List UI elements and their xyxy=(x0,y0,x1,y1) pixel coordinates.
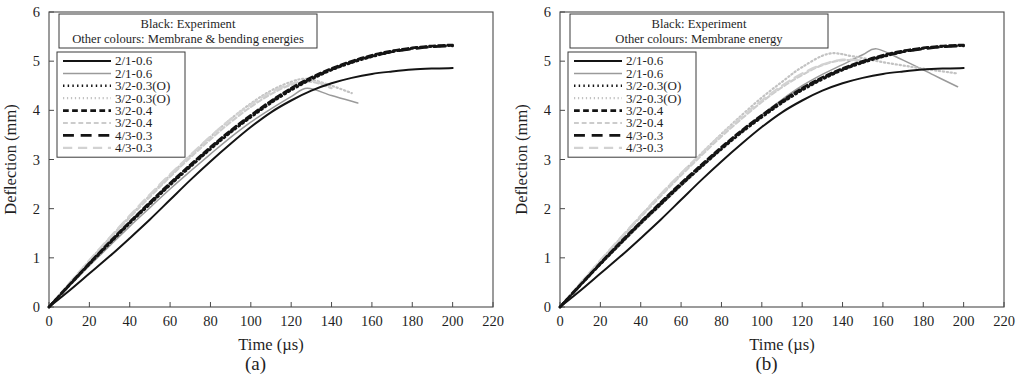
legend-header-line: Other colours: Membrane energy xyxy=(615,32,783,46)
legend-header-line: Black: Experiment xyxy=(141,17,236,31)
x-axis-title: Time (µs) xyxy=(749,335,814,354)
y-tick-label: 4 xyxy=(33,102,41,118)
panel-b: 0204060801001201401601802002200123456Tim… xyxy=(511,0,1022,377)
x-tick-label: 140 xyxy=(321,313,343,329)
y-tick-label: 0 xyxy=(544,299,551,315)
y-tick-label: 2 xyxy=(544,201,551,217)
chart-a: 0204060801001201401601802002200123456Tim… xyxy=(0,0,511,377)
y-tick-label: 2 xyxy=(33,201,40,217)
x-tick-label: 60 xyxy=(674,313,689,329)
y-tick-label: 6 xyxy=(33,4,40,20)
y-tick-label: 0 xyxy=(33,299,40,315)
x-tick-label: 100 xyxy=(751,313,773,329)
x-tick-label: 180 xyxy=(912,313,934,329)
y-tick-label: 5 xyxy=(544,53,551,69)
x-tick-label: 200 xyxy=(953,313,975,329)
x-tick-label: 40 xyxy=(122,313,137,329)
x-tick-label: 200 xyxy=(442,313,464,329)
y-tick-label: 3 xyxy=(544,152,551,168)
y-tick-label: 4 xyxy=(544,102,552,118)
y-tick-label: 1 xyxy=(544,250,551,266)
x-tick-label: 120 xyxy=(791,313,813,329)
x-tick-label: 160 xyxy=(872,313,894,329)
x-tick-label: 220 xyxy=(993,313,1015,329)
y-tick-label: 3 xyxy=(33,152,40,168)
x-axis-title: Time (µs) xyxy=(238,335,303,354)
panel-caption-a: (a) xyxy=(0,353,511,375)
x-tick-label: 100 xyxy=(240,313,262,329)
x-tick-label: 0 xyxy=(556,313,563,329)
y-axis-title: Deflection (mm) xyxy=(512,104,531,214)
legend-item-label: 4/3-0.3 xyxy=(626,140,663,155)
x-tick-label: 160 xyxy=(361,313,383,329)
chart-b: 0204060801001201401601802002200123456Tim… xyxy=(511,0,1022,377)
x-tick-label: 60 xyxy=(163,313,178,329)
y-tick-label: 5 xyxy=(33,53,40,69)
x-tick-label: 180 xyxy=(401,313,423,329)
x-tick-label: 20 xyxy=(82,313,97,329)
legend-header-line: Black: Experiment xyxy=(652,17,747,31)
x-tick-label: 220 xyxy=(482,313,504,329)
x-tick-label: 20 xyxy=(593,313,608,329)
panel-a: 0204060801001201401601802002200123456Tim… xyxy=(0,0,511,377)
legend-header-line: Other colours: Membrane & bending energi… xyxy=(72,32,304,46)
x-tick-label: 80 xyxy=(714,313,729,329)
x-tick-label: 80 xyxy=(203,313,218,329)
figure-two-panel-deflection-vs-time: 0204060801001201401601802002200123456Tim… xyxy=(0,0,1022,377)
plot-area-b: 0204060801001201401601802002200123456Tim… xyxy=(512,4,1015,354)
panel-caption-b: (b) xyxy=(511,353,1022,375)
legend-item-label: 4/3-0.3 xyxy=(115,140,152,155)
x-tick-label: 0 xyxy=(45,313,52,329)
x-tick-label: 40 xyxy=(633,313,648,329)
y-tick-label: 6 xyxy=(544,4,551,20)
y-tick-label: 1 xyxy=(33,250,40,266)
x-tick-label: 120 xyxy=(280,313,302,329)
plot-area-a: 0204060801001201401601802002200123456Tim… xyxy=(1,4,504,354)
x-tick-label: 140 xyxy=(832,313,854,329)
y-axis-title: Deflection (mm) xyxy=(1,104,20,214)
